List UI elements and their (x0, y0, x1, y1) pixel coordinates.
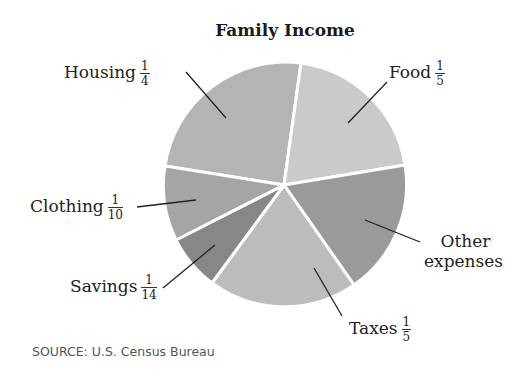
fraction-num: 1 (402, 316, 412, 330)
fraction-den: 5 (402, 330, 412, 343)
fraction-num: 1 (108, 194, 123, 208)
label-housing: Housing14 (64, 60, 150, 87)
fraction-den: 4 (140, 74, 150, 87)
label-savings-text: Savings (70, 276, 137, 296)
label-housing-text: Housing (64, 62, 136, 82)
fraction-den: 14 (141, 288, 156, 301)
label-other-line1: Other (424, 232, 503, 252)
fraction-housing: 14 (140, 60, 150, 87)
source-note: SOURCE: U.S. Census Bureau (32, 344, 215, 359)
label-taxes-text: Taxes (349, 318, 398, 338)
fraction-clothing: 110 (108, 194, 123, 221)
label-other-expenses: Other expenses (424, 232, 503, 271)
label-other-line2: expenses (424, 252, 503, 272)
label-food-text: Food (389, 62, 431, 82)
slice-housing (165, 62, 301, 185)
fraction-savings: 114 (141, 274, 156, 301)
fraction-den: 5 (435, 74, 445, 87)
fraction-num: 1 (435, 60, 445, 74)
fraction-food: 15 (435, 60, 445, 87)
fraction-taxes: 15 (402, 316, 412, 343)
label-savings: Savings114 (70, 274, 157, 301)
fraction-num: 1 (141, 274, 156, 288)
label-clothing: Clothing110 (30, 194, 123, 221)
label-food: Food15 (389, 60, 445, 87)
pie-chart (0, 0, 516, 379)
label-taxes: Taxes15 (349, 316, 411, 343)
fraction-den: 10 (108, 208, 123, 221)
fraction-num: 1 (140, 60, 150, 74)
label-clothing-text: Clothing (30, 196, 104, 216)
